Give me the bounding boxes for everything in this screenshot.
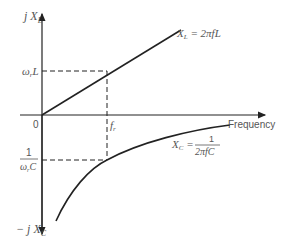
origin-label: 0 xyxy=(33,119,39,130)
xc-curve xyxy=(56,125,230,221)
xl-equation: XL = 2πfL xyxy=(176,27,221,41)
fr-label: fr xyxy=(110,119,116,133)
svg-text:XC =: XC = xyxy=(171,138,194,152)
svg-text:ωrC: ωrC xyxy=(20,161,36,173)
svg-text:1: 1 xyxy=(26,147,32,158)
xc-level-label: 1 ωrC xyxy=(20,147,38,173)
svg-text:2πfC: 2πfC xyxy=(195,146,215,157)
xc-equation: XC = 1 2πfC xyxy=(171,134,220,157)
x-axis-label: Frequency xyxy=(228,119,275,130)
svg-text:1: 1 xyxy=(209,134,214,144)
reactance-diagram: j XL − j XC Frequency 0 fr ωrL 1 ωrC XL … xyxy=(0,0,299,244)
xl-level-label: ωrL xyxy=(22,65,39,79)
y-top-label: j XL xyxy=(22,9,43,25)
xl-line xyxy=(42,30,181,115)
diagram-canvas: j XL − j XC Frequency 0 fr ωrL 1 ωrC XL … xyxy=(0,0,299,244)
